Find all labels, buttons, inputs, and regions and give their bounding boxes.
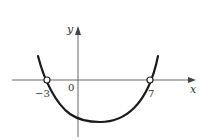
origin-label: 0 [68,82,74,93]
open-circle-right [147,77,153,83]
tick-label-left-root: −3 [35,88,50,99]
y-axis-arrow-icon [75,26,81,35]
function-curve [38,56,158,122]
graph-canvas: y 0 −3 7 x [0,0,211,140]
y-axis-label: y [66,23,74,36]
x-axis-label: x [190,83,197,96]
open-circle-left [44,77,50,83]
tick-label-right-root: 7 [148,88,154,99]
